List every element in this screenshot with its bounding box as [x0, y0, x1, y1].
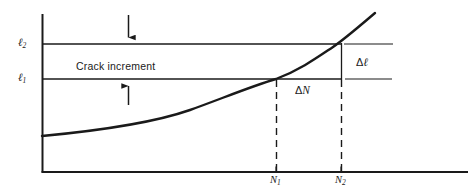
axis-lines [42, 14, 469, 173]
delta-l-label: Δℓ [356, 57, 368, 69]
x-label-n2-subscript: 2 [342, 178, 346, 187]
x-label-n1-symbol: N [270, 174, 277, 185]
x-label-n1: N1 [270, 175, 281, 187]
x-label-n2: N2 [335, 175, 346, 187]
y-label-l2-subscript: 2 [23, 41, 27, 50]
x-label-n1-subscript: 1 [277, 178, 281, 187]
delta-n-variable: N [302, 84, 310, 96]
crack-increment-label: Crack increment [76, 61, 155, 72]
delta-l-variable: ℓ [363, 56, 368, 68]
y-label-l1: ℓ1 [18, 72, 26, 85]
diagram-canvas [0, 0, 474, 193]
fatigue-crack-growth-diagram: ℓ2 ℓ1 Crack increment ΔN Δℓ N1 N2 [0, 0, 474, 193]
y-label-l2: ℓ2 [18, 37, 26, 50]
x-label-n2-symbol: N [335, 174, 342, 185]
crack-growth-curve [42, 13, 375, 136]
delta-n-label: ΔN [295, 85, 310, 97]
y-label-l1-subscript: 1 [23, 76, 27, 85]
